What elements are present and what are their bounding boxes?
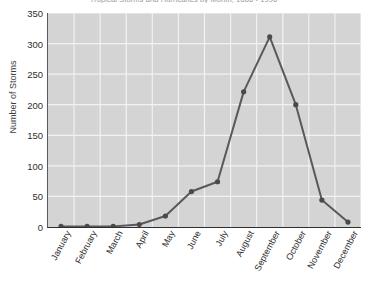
x-tick-label-text: November bbox=[305, 229, 333, 270]
x-axis-tick-labels: JanuaryFebruaryMarchAprilMayJuneJulyAugu… bbox=[47, 229, 360, 283]
storms-line-series bbox=[48, 13, 361, 227]
x-tick-label-text: October bbox=[284, 229, 308, 262]
x-tick-label: March bbox=[104, 229, 125, 256]
y-tick-label: 0 bbox=[3, 222, 43, 233]
x-tick-label: May bbox=[160, 229, 177, 249]
data-point-marker bbox=[85, 224, 90, 227]
x-tick-label: January bbox=[49, 229, 73, 262]
x-tick-label: September bbox=[252, 229, 282, 273]
data-point-marker bbox=[345, 220, 350, 225]
plot-area bbox=[47, 13, 361, 228]
data-point-marker bbox=[215, 179, 220, 184]
y-tick-label: 200 bbox=[3, 99, 43, 110]
data-point-marker bbox=[58, 224, 63, 227]
x-tick-label: February bbox=[73, 229, 99, 265]
x-tick-label-text: March bbox=[104, 229, 125, 256]
data-point-marker bbox=[267, 34, 272, 39]
x-tick-label-text: June bbox=[185, 229, 203, 251]
chart-title: Tropical Storms and Hurricanes by Month,… bbox=[0, 0, 367, 3]
x-tick-label-text: August bbox=[233, 229, 255, 258]
y-tick-label: 350 bbox=[3, 8, 43, 19]
series-line bbox=[61, 37, 348, 227]
x-tick-label: August bbox=[233, 229, 255, 258]
y-tick-label: 250 bbox=[3, 69, 43, 80]
y-axis-tick-labels: 050100150200250300350 bbox=[0, 13, 43, 227]
x-tick-label-text: September bbox=[252, 229, 282, 273]
x-tick-label: June bbox=[185, 229, 203, 251]
x-tick-label: April bbox=[134, 229, 151, 250]
x-tick-label: July bbox=[213, 229, 229, 248]
data-point-marker bbox=[241, 89, 246, 94]
x-tick-label-text: February bbox=[73, 229, 99, 265]
x-tick-label: December bbox=[331, 229, 359, 270]
data-point-marker bbox=[189, 189, 194, 194]
y-tick-label: 50 bbox=[3, 191, 43, 202]
y-tick-label: 150 bbox=[3, 130, 43, 141]
x-tick-label-text: December bbox=[331, 229, 359, 270]
y-tick-label: 300 bbox=[3, 38, 43, 49]
x-tick-label: October bbox=[284, 229, 308, 262]
x-tick-label-text: July bbox=[213, 229, 229, 248]
data-point-marker bbox=[319, 198, 324, 203]
data-point-marker bbox=[163, 213, 168, 218]
x-tick-label: November bbox=[305, 229, 333, 270]
data-point-marker bbox=[137, 222, 142, 227]
x-tick-label-text: January bbox=[49, 229, 73, 262]
x-tick-label-text: April bbox=[134, 229, 151, 250]
y-tick-label: 100 bbox=[3, 160, 43, 171]
data-point-marker bbox=[293, 102, 298, 107]
chart-figure: Tropical Storms and Hurricanes by Month,… bbox=[0, 0, 367, 283]
data-point-marker bbox=[111, 224, 116, 227]
x-tick-label-text: May bbox=[160, 229, 177, 249]
